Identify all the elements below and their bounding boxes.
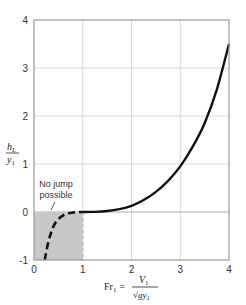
x-tick-label: 2 (129, 264, 135, 275)
y-axis-label: hL y1 (6, 141, 19, 167)
x-tick-label: 4 (226, 264, 232, 275)
svg-text:y1: y1 (6, 154, 15, 167)
svg-text:Fr1=: Fr1= (104, 281, 125, 294)
y-tick-label: -1 (19, 255, 28, 266)
x-tick-label: 1 (80, 264, 86, 275)
svg-text:V1: V1 (139, 274, 149, 287)
no-jump-region (34, 212, 83, 260)
y-tick-label: 0 (22, 207, 28, 218)
y-tick-label: 3 (22, 63, 28, 74)
annotation-line1: No jump (39, 179, 73, 189)
y-tick-label: 2 (22, 111, 28, 122)
x-axis-label: Fr1= V1 √gy1 (104, 274, 158, 301)
x-tick-label: 0 (31, 264, 37, 275)
solid-curve (83, 44, 229, 212)
y-tick-label: 1 (22, 159, 28, 170)
svg-text:√gy1: √gy1 (133, 290, 150, 301)
head-loss-chart: 01234-101234 No jump possible hL y1 Fr1=… (0, 0, 246, 305)
x-tick-label: 3 (177, 264, 183, 275)
svg-text:hL: hL (7, 141, 16, 154)
y-tick-label: 4 (22, 15, 28, 26)
annotation-line2: possible (39, 190, 72, 200)
annotation-arrow (51, 202, 55, 210)
